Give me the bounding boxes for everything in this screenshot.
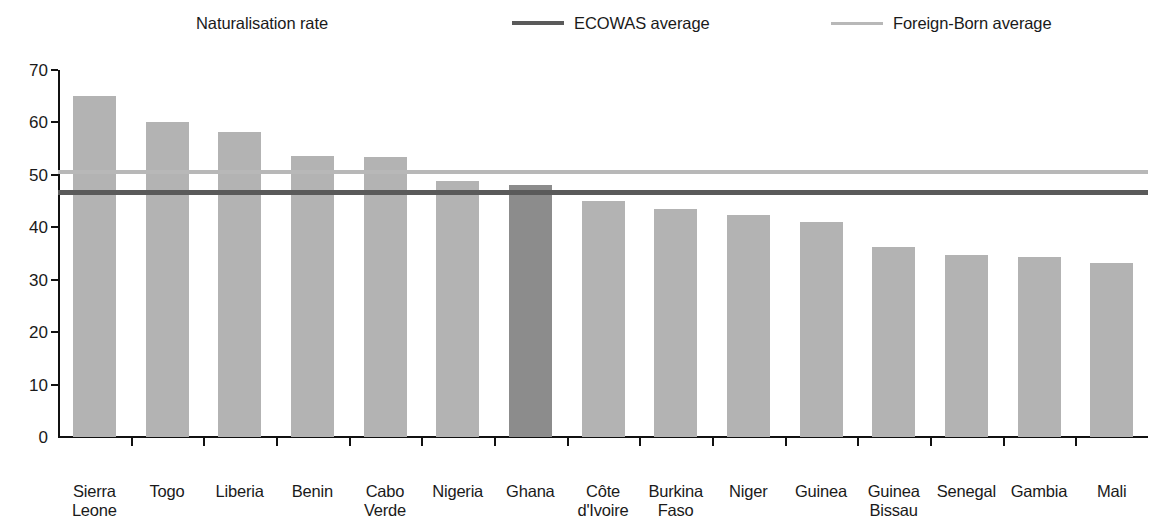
x-category-label-line1: Gambia [1011,482,1068,500]
x-category-label-line1: Guinea [868,482,920,500]
x-category-label-line2: Bissau [857,501,930,520]
bar [291,156,334,437]
x-category-label-line1: Sierra [73,482,116,500]
x-tick-mark [131,438,133,446]
bar [73,96,116,437]
x-category-label: CaboVerde [349,482,422,520]
bar [364,157,407,437]
x-tick-mark [349,438,351,446]
plot-area: 010203040506070 SierraLeoneTogoLiberiaBe… [0,40,1156,494]
x-tick-mark [1075,438,1077,446]
x-tick-mark [276,438,278,446]
x-category-label-line1: Niger [729,482,767,500]
x-category-label-line1: Guinea [795,482,847,500]
y-tick-label: 70 [4,62,48,79]
x-category-label: SierraLeone [58,482,131,520]
y-tick-label: 0 [4,429,48,446]
y-tick-label: 30 [4,271,48,288]
x-category-label-line2: d'Ivoire [567,501,640,520]
x-tick-mark [203,438,205,446]
bar [654,209,697,437]
x-category-label-line1: Liberia [216,482,264,500]
line-swatch-icon [831,22,883,25]
y-tick-mark [51,174,58,176]
bar [146,122,189,437]
bar [509,185,552,437]
x-tick-mark [930,438,932,446]
x-category-label: BurkinaFaso [639,482,712,520]
x-category-label: Ghana [494,482,567,501]
y-tick-mark [51,331,58,333]
y-tick-label: 60 [4,114,48,131]
legend-item-ecowas-average: ECOWAS average [512,13,710,33]
y-tick-mark [51,69,58,71]
x-tick-mark [494,438,496,446]
bar [1090,263,1133,437]
legend-label: ECOWAS average [574,15,710,32]
legend-label: Foreign-Born average [893,15,1052,32]
x-category-label: Niger [712,482,785,501]
y-tick-label: 20 [4,324,48,341]
y-tick-mark [51,226,58,228]
x-tick-mark [639,438,641,446]
x-category-label-line2: Verde [349,501,422,520]
chart-legend: Naturalisation rate ECOWAS average Forei… [0,0,1156,40]
y-tick-mark [51,121,58,123]
x-category-label-line1: Burkina [648,482,703,500]
x-tick-mark [567,438,569,446]
bar [436,181,479,437]
bar [218,132,261,437]
y-axis-labels: 010203040506070 [0,40,48,494]
x-category-label: Côted'Ivoire [567,482,640,520]
x-tick-mark [1003,438,1005,446]
x-category-label-line1: Benin [292,482,333,500]
y-tick-label: 50 [4,166,48,183]
plot-canvas [58,40,1148,494]
x-axis-category-labels: SierraLeoneTogoLiberiaBeninCaboVerdeNige… [58,482,1148,520]
x-category-label-line2: Faso [639,501,712,520]
bar [727,215,770,437]
ecowas-average-line [58,190,1148,195]
x-category-label: Gambia [1003,482,1076,501]
x-category-label-line1: Togo [149,482,184,500]
x-category-label-line1: Côte [586,482,620,500]
x-category-label: Liberia [203,482,276,501]
x-category-label: Nigeria [421,482,494,501]
y-tick-mark [51,279,58,281]
y-tick-label: 40 [4,219,48,236]
foreign-born-average-line [58,170,1148,174]
x-category-label: Guinea [785,482,858,501]
x-category-label: GuineaBissau [857,482,930,520]
y-tick-mark [51,384,58,386]
x-category-label-line1: Senegal [937,482,996,500]
x-tick-mark [857,438,859,446]
legend-item-foreign-born-average: Foreign-Born average [831,13,1052,33]
y-tick-label: 10 [4,376,48,393]
x-tick-mark [712,438,714,446]
x-category-label-line1: Nigeria [432,482,483,500]
bar [1018,257,1061,437]
x-category-label: Mali [1075,482,1148,501]
x-category-label-line2: Leone [58,501,131,520]
legend-item-naturalisation-rate: Naturalisation rate [196,13,328,33]
x-category-label: Senegal [930,482,1003,501]
line-swatch-icon [512,21,564,25]
legend-label: Naturalisation rate [196,15,328,32]
bar [872,247,915,437]
x-tick-mark [421,438,423,446]
x-tick-mark [785,438,787,446]
bar [582,201,625,437]
x-category-label-line1: Ghana [506,482,555,500]
bar [800,222,843,437]
x-category-label: Benin [276,482,349,501]
x-category-label: Togo [131,482,204,501]
bar [945,255,988,437]
y-axis-line [58,70,60,438]
x-category-label-line1: Mali [1097,482,1126,500]
x-category-label-line1: Cabo [366,482,405,500]
